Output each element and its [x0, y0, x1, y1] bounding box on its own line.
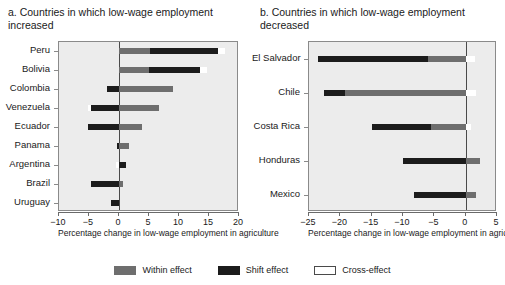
panel-a-title: a. Countries in which low-wage employmen… [8, 6, 246, 32]
bar-segment-cross-effect [466, 90, 476, 96]
bar-segment-shift-effect [119, 162, 126, 168]
bar-honduras [309, 158, 495, 164]
panel-b-category-label: Honduras [252, 155, 300, 165]
panel-b-category-label: El Salvador [252, 53, 300, 63]
panel-a-x-tick-label: 15 [203, 217, 213, 227]
panel-a-axis-title: Percentage change in low-wage employment… [58, 228, 238, 238]
panel-a-category-label: Brazil [0, 178, 50, 188]
panel-a-category-label: Argentina [0, 159, 50, 169]
panel-a: a. Countries in which low-wage employmen… [0, 0, 252, 250]
bar-colombia [59, 86, 237, 92]
panel-b-x-tick-label: −15 [363, 217, 378, 227]
panel-a-x-axis: −10−505101520 [58, 212, 238, 213]
panel-b-x-tick-label: −10 [394, 217, 409, 227]
panel-a-x-tick-label: −5 [83, 217, 93, 227]
bar-panama [59, 143, 237, 149]
panel-b-x-tick-label: 0 [462, 217, 467, 227]
bar-segment-within-effect [119, 181, 123, 187]
panel-a-x-tick-label: −10 [50, 217, 65, 227]
panel-b-x-tick-label: −5 [428, 217, 438, 227]
bar-segment-shift-effect [88, 124, 119, 130]
panel-b-category-label: Chile [252, 87, 300, 97]
bar-segment-within-effect [119, 143, 129, 149]
bar-segment-shift-effect [91, 181, 119, 187]
figure: a. Countries in which low-wage employmen… [0, 0, 505, 285]
panel-a-x-tick-label: 20 [233, 217, 243, 227]
panel-a-category-label: Ecuador [0, 121, 50, 131]
bar-segment-cross-effect [218, 48, 225, 54]
bar-segment-within-effect [119, 67, 149, 73]
bar-el-salvador [309, 56, 495, 62]
bar-segment-shift-effect [111, 200, 119, 206]
bar-segment-within-effect [345, 90, 465, 96]
bar-ecuador [59, 124, 237, 130]
panel-a-x-tick [208, 212, 209, 216]
panel-a-x-tick [118, 212, 119, 216]
panel-b-x-tick [433, 212, 434, 216]
panel-b-x-tick-label: 5 [493, 217, 498, 227]
panel-a-x-tick-label: 5 [145, 217, 150, 227]
legend: Within effectShift effectCross-effect [0, 262, 505, 278]
panel-b-x-tick [371, 212, 372, 216]
panel-a-plot-area [58, 41, 238, 211]
panel-a-x-tick [238, 212, 239, 216]
bar-segment-shift-effect [117, 143, 119, 149]
bar-argentina [59, 162, 237, 168]
panel-b-x-tick-label: −20 [332, 217, 347, 227]
panel-b-x-tick [465, 212, 466, 216]
bar-segment-within-effect [119, 86, 173, 92]
legend-item-shift-effect: Shift effect [218, 265, 288, 275]
panel-a-category-label: Uruguay [0, 197, 50, 207]
bar-segment-within-effect [431, 124, 466, 130]
bar-segment-cross-effect [88, 105, 91, 111]
bar-segment-shift-effect [149, 67, 200, 73]
bar-segment-shift-effect [150, 48, 218, 54]
legend-swatch-icon [314, 266, 336, 275]
bar-peru [59, 48, 237, 54]
bar-bolivia [59, 67, 237, 73]
legend-item-cross-effect: Cross-effect [314, 265, 390, 275]
panel-b-x-tick [496, 212, 497, 216]
panel-b-x-axis: −25−20−15−10−505 [308, 212, 496, 213]
bar-venezuela [59, 105, 237, 111]
panel-a-x-tick-label: 10 [173, 217, 183, 227]
bar-segment-shift-effect [318, 56, 428, 62]
bar-segment-shift-effect [403, 158, 466, 164]
bar-segment-shift-effect [91, 105, 119, 111]
bar-segment-shift-effect [372, 124, 431, 130]
panel-a-category-label: Bolivia [0, 64, 50, 74]
legend-swatch-icon [114, 266, 136, 275]
legend-swatch-icon [218, 266, 240, 275]
bar-segment-within-effect [466, 158, 480, 164]
panel-b-x-tick [402, 212, 403, 216]
panel-b-axis-title: Percentage change in low-wage employment… [308, 228, 496, 238]
legend-label: Shift effect [246, 265, 288, 275]
panel-a-x-tick [148, 212, 149, 216]
bar-mexico [309, 192, 495, 198]
bar-segment-shift-effect [324, 90, 345, 96]
legend-label: Cross-effect [342, 265, 390, 275]
panel-a-x-tick-label: 0 [115, 217, 120, 227]
legend-item-within-effect: Within effect [114, 265, 191, 275]
bar-segment-within-effect [119, 105, 159, 111]
panel-a-x-tick [178, 212, 179, 216]
bar-segment-cross-effect [466, 56, 475, 62]
panel-b-x-tick [308, 212, 309, 216]
bar-segment-within-effect [119, 48, 150, 54]
panel-b-category-label: Costa Rica [252, 121, 300, 131]
bar-segment-shift-effect [107, 86, 119, 92]
legend-label: Within effect [142, 265, 191, 275]
bar-segment-within-effect [466, 192, 477, 198]
bar-segment-cross-effect [200, 67, 207, 73]
panel-a-category-label: Colombia [0, 83, 50, 93]
bar-segment-cross-effect [116, 162, 119, 168]
panel-b-plot-area [308, 41, 496, 211]
bar-segment-cross-effect [466, 124, 472, 130]
bar-brazil [59, 181, 237, 187]
panel-a-category-label: Venezuela [0, 102, 50, 112]
panel-b-category-label: Mexico [252, 189, 300, 199]
panel-a-x-tick [58, 212, 59, 216]
panel-a-category-label: Panama [0, 140, 50, 150]
bar-uruguay [59, 200, 237, 206]
bar-chile [309, 90, 495, 96]
